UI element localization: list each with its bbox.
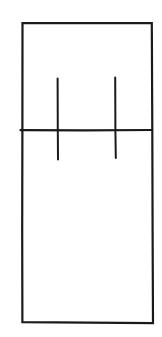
outer-rectangle: [22, 23, 153, 323]
line-sketch-diagram: [0, 0, 162, 337]
right-vertical-tick: [115, 78, 116, 159]
